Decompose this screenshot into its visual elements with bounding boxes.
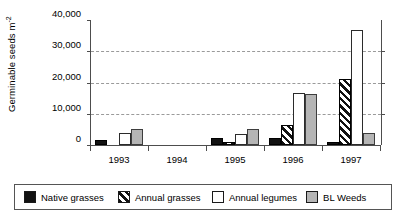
y-axis-title-text: Germinable seeds m <box>6 23 17 112</box>
x-tick-label-1993: 1993 <box>90 154 148 165</box>
y-tick-label-40000: 40,000 <box>52 9 81 19</box>
legend-item-annual-grasses: Annual grasses <box>109 191 203 203</box>
bar-1993-native-grasses <box>95 140 107 145</box>
bar-1997-annual-grasses <box>339 79 351 145</box>
bar-1996-annual-grasses <box>281 125 293 145</box>
x-tick-mark-0 <box>90 145 91 151</box>
legend-swatch-native-grasses-icon <box>24 191 36 203</box>
x-tick-mark-4 <box>322 145 323 151</box>
bar-1996-annual-legumes <box>293 93 305 145</box>
bar-1997-bl-weeds <box>363 133 375 146</box>
bar-group-1997 <box>322 20 380 145</box>
x-tick-label-1997: 1997 <box>322 154 380 165</box>
y-tick-label-20000: 20,000 <box>52 72 81 82</box>
y-tick-mark-right-10000 <box>381 114 385 115</box>
y-tick-label-30000: 30,000 <box>52 40 81 50</box>
bar-groups <box>90 20 380 145</box>
x-tick-label-1995: 1995 <box>206 154 264 165</box>
bar-1993-bl-weeds <box>131 129 143 145</box>
bar-1995-bl-weeds <box>247 129 259 145</box>
germinable-seeds-bar-chart: Germinable seeds m-2 40,000 30,000 20,00… <box>0 0 409 222</box>
legend-swatch-annual-grasses-icon <box>118 191 130 203</box>
bar-1997-annual-legumes <box>351 30 363 145</box>
legend-label-annual-legumes: Annual legumes <box>229 192 297 203</box>
y-tick-label-0: 0 <box>76 134 81 144</box>
bar-group-1995 <box>206 20 264 145</box>
bar-group-1993 <box>90 20 148 145</box>
legend-swatch-bl-weeds-icon <box>306 191 318 203</box>
legend-label-bl-weeds: BL Weeds <box>323 192 366 203</box>
y-tick-mark-right-20000 <box>381 83 385 84</box>
y-axis-title-area: Germinable seeds m-2 <box>0 0 22 160</box>
bar-1995-annual-legumes <box>235 134 247 145</box>
legend-label-annual-grasses: Annual grasses <box>135 192 200 203</box>
y-axis-title-exponent: -2 <box>5 16 12 22</box>
x-tick-label-1996: 1996 <box>264 154 322 165</box>
legend-label-native-grasses: Native grasses <box>41 192 104 203</box>
bar-1996-native-grasses <box>269 138 281 145</box>
x-tick-mark-1 <box>148 145 149 151</box>
bar-1995-native-grasses <box>211 138 223 145</box>
legend-item-native-grasses: Native grasses <box>15 191 109 203</box>
x-tick-mark-5 <box>380 145 381 151</box>
y-axis-tick-labels: 40,000 30,000 20,000 10,000 0 <box>20 14 84 150</box>
x-tick-mark-3 <box>264 145 265 151</box>
legend-item-annual-legumes: Annual legumes <box>203 191 297 203</box>
y-axis-title: Germinable seeds m-2 <box>5 5 17 123</box>
x-axis-line <box>90 145 380 146</box>
bar-1995-annual-grasses <box>223 142 235 145</box>
bar-group-1996 <box>264 20 322 145</box>
legend-item-bl-weeds: BL Weeds <box>297 191 391 203</box>
y-tick-label-10000: 10,000 <box>52 103 81 113</box>
x-tick-mark-2 <box>206 145 207 151</box>
y-tick-mark-right-30000 <box>381 51 385 52</box>
bar-1993-annual-legumes <box>119 133 131 145</box>
x-axis-tick-labels: 1993 1994 1995 1996 1997 <box>90 154 380 165</box>
chart-legend: Native grasses Annual grasses Annual leg… <box>14 184 392 210</box>
legend-swatch-annual-legumes-icon <box>212 191 224 203</box>
x-tick-label-1994: 1994 <box>148 154 206 165</box>
bar-group-1994 <box>148 20 206 145</box>
bar-1997-native-grasses <box>327 142 339 145</box>
bar-1996-bl-weeds <box>305 94 317 145</box>
